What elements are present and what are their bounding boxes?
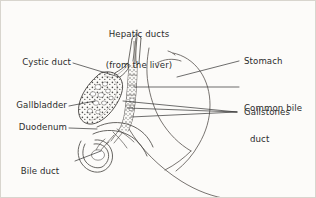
label-hepatic-ducts-line2: (from the liver) <box>97 60 181 70</box>
label-gallstones: Gallstones <box>244 107 314 117</box>
leader-duodenum <box>69 128 97 129</box>
duodenal-papilla <box>92 150 105 160</box>
label-bile-duct-opening: Bile duct opens into duodenum <box>7 145 73 198</box>
label-stomach: Stomach <box>244 56 314 66</box>
label-bile-duct-opening-line2: opens into <box>7 197 73 198</box>
label-hepatic-ducts: Hepatic ducts (from the liver) <box>97 8 181 91</box>
leader-gallstones-3 <box>131 112 237 117</box>
leader-gallstones-2 <box>127 108 237 112</box>
anatomy-figure: Hepatic ducts (from the liver) Cystic du… <box>0 0 316 198</box>
leader-stomach <box>177 61 239 77</box>
label-gallbladder: Gallbladder <box>1 100 67 110</box>
label-cystic-duct: Cystic duct <box>1 57 71 67</box>
label-hepatic-ducts-line1: Hepatic ducts <box>97 29 181 39</box>
leader-gallstones-1 <box>123 101 237 112</box>
label-duodenum: Duodenum <box>1 122 67 132</box>
label-common-bile-duct: Common bile duct <box>244 82 316 165</box>
label-common-bile-duct-line2: duct <box>244 134 316 144</box>
label-bile-duct-opening-line1: Bile duct <box>7 166 73 176</box>
